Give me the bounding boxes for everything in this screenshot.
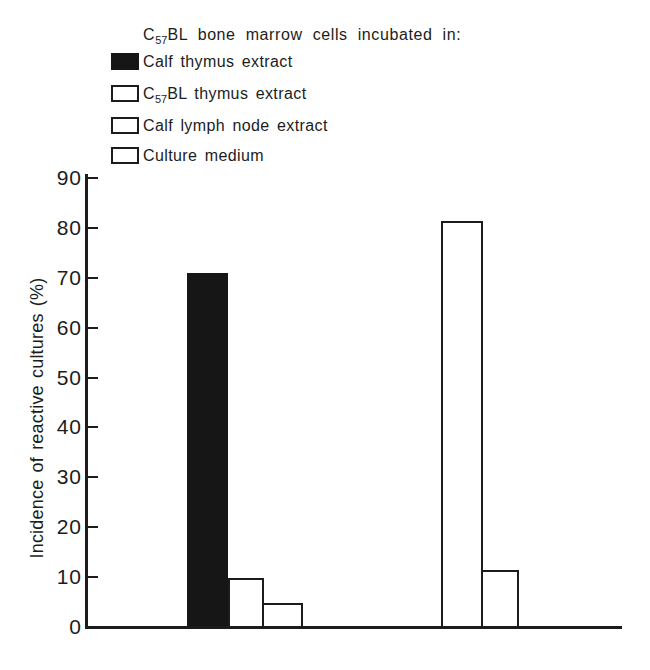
legend-label-suffix: BL thymus extract [167, 85, 306, 102]
y-axis-tick-label: 30 [36, 462, 82, 492]
legend-swatch-solid-black [111, 53, 139, 70]
legend-label-prefix: C [143, 85, 155, 102]
chart-title: C57BL bone marrow cells incubated in: [143, 26, 461, 46]
y-axis-tick-label: 50 [36, 363, 82, 393]
bar-c57bl-thymus-extract [441, 221, 483, 630]
y-axis-tick-label: 10 [36, 562, 82, 592]
bar-culture-medium-group1 [228, 578, 264, 629]
y-axis-tick-label: 80 [36, 213, 82, 243]
y-axis-tick [87, 526, 98, 528]
y-axis-tick-label: 20 [36, 512, 82, 542]
chart-title-suffix: BL bone marrow cells incubated in: [167, 26, 461, 43]
legend-label-culture-medium: Culture medium [143, 147, 264, 164]
chart-title-subscript: 57 [155, 34, 167, 46]
y-axis-tick [87, 277, 98, 279]
legend-label-subscript: 57 [155, 93, 167, 105]
bar-calf-thymus-extract [187, 273, 228, 630]
y-axis-tick [87, 227, 98, 229]
legend-label-calf-lymph-node-extract: Calf lymph node extract [143, 117, 328, 134]
legend-swatch-diagonal-hatch [111, 85, 139, 102]
bar-culture-medium-group2 [481, 570, 519, 630]
y-axis-tick [87, 377, 98, 379]
chart-title-prefix: C [143, 26, 155, 43]
bar-chart-figure: C57BL bone marrow cells incubated in: Ca… [0, 0, 650, 670]
y-axis-tick [87, 426, 98, 428]
y-axis-tick-label: 70 [36, 263, 82, 293]
y-axis-tick-label: 40 [36, 412, 82, 442]
y-axis-tick-label: 0 [36, 612, 82, 642]
legend-label-c57bl-thymus-extract: C57BL thymus extract [143, 85, 306, 108]
y-axis-tick [87, 476, 98, 478]
y-axis-tick-label: 90 [36, 163, 82, 193]
y-axis-tick [87, 576, 98, 578]
legend-label-calf-thymus-extract: Calf thymus extract [143, 53, 293, 70]
legend-swatch-stipple [111, 117, 139, 134]
y-axis-tick [87, 327, 98, 329]
y-axis-tick [87, 177, 98, 179]
x-axis [85, 626, 622, 629]
legend-swatch-open-white [111, 147, 139, 164]
y-axis-tick-label: 60 [36, 313, 82, 343]
y-axis [85, 174, 88, 629]
